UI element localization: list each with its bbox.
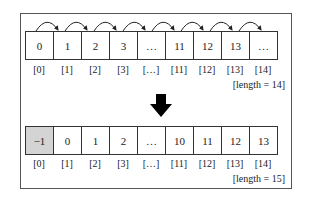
shift-arrow-icon bbox=[36, 22, 58, 31]
index-label: [2] bbox=[81, 64, 109, 75]
index-label: [12] bbox=[193, 64, 221, 75]
shift-arrow-icon bbox=[210, 22, 232, 31]
array-cell: … bbox=[137, 126, 166, 155]
shift-arrow-icon bbox=[152, 22, 174, 31]
index-label: [14] bbox=[249, 158, 277, 169]
index-label: [11] bbox=[165, 64, 193, 75]
array-cell: 10 bbox=[165, 126, 194, 155]
down-arrow-icon bbox=[149, 94, 173, 118]
index-label: [13] bbox=[221, 158, 249, 169]
index-label: [14] bbox=[249, 64, 277, 75]
index-label: [1] bbox=[53, 158, 81, 169]
array-cell: 11 bbox=[193, 126, 222, 155]
bottom-index-row: [0] [1] [2] [3] […] [11] [12] [13] [14] bbox=[25, 158, 277, 169]
index-label: [1] bbox=[53, 64, 81, 75]
index-label: [12] bbox=[193, 158, 221, 169]
index-label: [0] bbox=[25, 64, 53, 75]
array-cell: … bbox=[249, 31, 278, 60]
array-cell: 11 bbox=[165, 31, 194, 60]
array-cell: 1 bbox=[53, 31, 82, 60]
shift-arrow-icon bbox=[65, 22, 87, 31]
array-cell: 13 bbox=[249, 126, 278, 155]
index-label: [11] bbox=[165, 158, 193, 169]
index-label: [2] bbox=[81, 158, 109, 169]
array-cell-highlighted: −1 bbox=[25, 126, 54, 155]
index-label: [0] bbox=[25, 158, 53, 169]
array-cell: 13 bbox=[221, 31, 250, 60]
top-array: 0 1 2 3 … 11 12 13 … bbox=[25, 31, 278, 60]
array-cell: 2 bbox=[109, 126, 138, 155]
array-cell: 0 bbox=[25, 31, 54, 60]
array-cell: 12 bbox=[193, 31, 222, 60]
array-cell: 1 bbox=[81, 126, 110, 155]
index-label: [13] bbox=[221, 64, 249, 75]
bottom-length-label: [length = 15] bbox=[233, 173, 285, 184]
array-cell: 12 bbox=[221, 126, 250, 155]
index-label: [3] bbox=[109, 64, 137, 75]
shift-arrow-icon bbox=[94, 22, 116, 31]
array-cell: … bbox=[137, 31, 166, 60]
index-label: […] bbox=[137, 158, 165, 169]
array-cell: 0 bbox=[53, 126, 82, 155]
index-label: [3] bbox=[109, 158, 137, 169]
top-index-row: [0] [1] [2] [3] […] [11] [12] [13] [14] bbox=[25, 64, 277, 75]
array-cell: 3 bbox=[109, 31, 138, 60]
shift-arrow-icon bbox=[123, 22, 145, 31]
shift-arrow-icon bbox=[181, 22, 203, 31]
shift-arrow-icon bbox=[239, 22, 261, 31]
index-label: […] bbox=[137, 64, 165, 75]
top-length-label: [length = 14] bbox=[233, 79, 285, 90]
array-cell: 2 bbox=[81, 31, 110, 60]
bottom-array: −1 0 1 2 … 10 11 12 13 bbox=[25, 126, 278, 155]
